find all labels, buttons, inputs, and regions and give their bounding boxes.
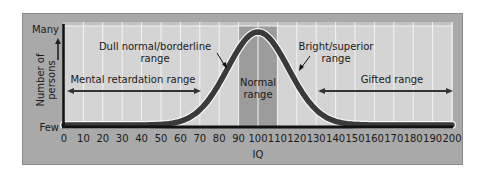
y-tick-few: Few	[39, 122, 59, 133]
x-tick-150: 150	[345, 133, 364, 144]
mental-retardation-label: Mental retardation range	[70, 74, 195, 85]
x-tick-80: 80	[213, 133, 226, 144]
x-tick-200: 200	[442, 133, 461, 144]
y-axis-label-line1: Number of	[35, 53, 46, 106]
y-tick-many: Many	[32, 24, 59, 35]
x-tick-40: 40	[135, 133, 148, 144]
x-tick-60: 60	[174, 133, 187, 144]
x-axis-label: IQ	[253, 149, 264, 160]
x-tick-10: 10	[77, 133, 90, 144]
normal-range-label-2: range	[243, 89, 272, 100]
normal-range-label: Normal	[240, 77, 276, 88]
x-tick-180: 180	[404, 133, 423, 144]
x-tick-140: 140	[326, 133, 345, 144]
bright-superior-label-2: range	[321, 53, 350, 64]
bright-superior-label: Bright/superior	[299, 41, 375, 52]
x-tick-170: 170	[384, 133, 403, 144]
x-tick-50: 50	[155, 133, 168, 144]
x-tick-30: 30	[116, 133, 129, 144]
y-axis-up-arrow-icon	[55, 38, 61, 60]
dull-normal-label-2: range	[140, 53, 169, 64]
y-axis-label-line2: persons	[46, 60, 57, 100]
iq-distribution-chart: Many Few Number of persons 0102030405060…	[0, 0, 489, 177]
x-tick-90: 90	[232, 133, 245, 144]
x-tick-110: 110	[268, 133, 287, 144]
x-tick-190: 190	[423, 133, 442, 144]
x-tick-120: 120	[287, 133, 306, 144]
x-tick-20: 20	[96, 133, 109, 144]
x-tick-labels: 0102030405060708090100110120130140150160…	[61, 133, 462, 144]
gifted-range-label: Gifted range	[361, 74, 424, 85]
x-tick-0: 0	[61, 133, 67, 144]
x-tick-160: 160	[365, 133, 384, 144]
x-tick-70: 70	[193, 133, 206, 144]
x-tick-100: 100	[248, 133, 267, 144]
x-tick-130: 130	[307, 133, 326, 144]
dull-normal-label: Dull normal/borderline	[99, 41, 211, 52]
